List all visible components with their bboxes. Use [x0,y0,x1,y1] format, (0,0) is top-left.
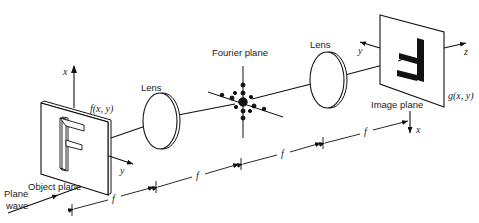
image-plane-label: Image plane [371,99,423,110]
object-y-axis-label: y [119,165,125,176]
image-z-axis-label: z [463,46,468,57]
image-z-axis-arrow [444,43,466,48]
fourier-plane-label: Fourier plane [212,47,268,58]
image-function-label: g(x, y) [448,90,474,102]
image-x-axis-label: x [415,124,421,135]
image-y-axis-arrow [360,42,380,48]
object-x-axis-label: x [62,66,68,77]
image-plane [380,15,444,107]
image-y-axis-label: y [357,45,363,56]
object-function-label: f(x, y) [90,103,114,115]
object-plane-label: Object plane [28,181,81,192]
dimension-f-label-4: f [364,126,368,137]
dimension-f-label-3: f [281,148,285,159]
fourier-plane-spectrum [208,66,283,138]
dimension-f-label-2: f [196,170,200,181]
plane-wave-label-line2: wave [5,200,28,211]
lens-2-label: Lens [310,39,331,50]
lens-1 [143,93,180,149]
dimension-f-label-1: f [112,193,116,204]
lens-1-label: Lens [141,82,162,93]
lens-2 [310,52,347,108]
object-y-axis-arrow [109,156,133,164]
plane-wave-label-line1: Plane [4,188,28,199]
4f-optical-system-diagram: Plane wave f(x, y) Object plane x y Lens [0,0,479,223]
